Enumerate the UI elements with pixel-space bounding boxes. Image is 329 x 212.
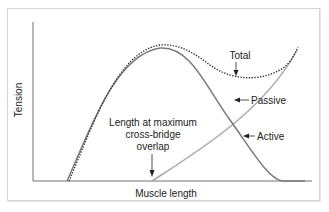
active-arrowhead-icon bbox=[243, 134, 249, 139]
active-curve bbox=[67, 48, 305, 181]
active-label: Active bbox=[257, 131, 285, 142]
overlap-arrowhead-icon bbox=[150, 170, 155, 177]
y-axis-label: Tension bbox=[13, 83, 24, 117]
total-arrowhead-icon bbox=[234, 70, 239, 76]
passive-curve bbox=[152, 50, 297, 181]
length-tension-diagram: Tension Muscle length Total Passive Acti… bbox=[0, 0, 329, 212]
overlap-label-line2: cross-bridge bbox=[125, 129, 180, 140]
passive-label: Passive bbox=[251, 95, 286, 106]
overlap-label-line1: Length at maximum bbox=[109, 117, 197, 128]
total-label: Total bbox=[229, 50, 250, 61]
x-axis-label: Muscle length bbox=[135, 188, 197, 199]
passive-arrowhead-icon bbox=[234, 98, 240, 103]
overlap-label-line3: overlap bbox=[137, 141, 170, 152]
